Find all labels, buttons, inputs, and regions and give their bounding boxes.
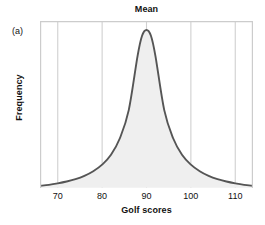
figure-panel-a: Mean (a) Frequency 708090100110 Golf sco… xyxy=(0,0,265,225)
distribution-area-fill xyxy=(40,30,253,188)
x-tick-label-90: 90 xyxy=(127,190,167,202)
x-axis-title: Golf scores xyxy=(40,204,253,216)
x-tick-label-70: 70 xyxy=(38,190,78,202)
x-axis-tick-labels: 708090100110 xyxy=(0,190,265,204)
x-tick-label-80: 80 xyxy=(82,190,122,202)
plot-area xyxy=(40,21,253,189)
x-tick-label-110: 110 xyxy=(215,190,255,202)
chart-title: Mean xyxy=(40,3,253,15)
x-tick-label-100: 100 xyxy=(171,190,211,202)
y-axis-title: Frequency xyxy=(14,53,25,143)
distribution-plot xyxy=(40,21,253,189)
panel-label: (a) xyxy=(12,26,23,37)
